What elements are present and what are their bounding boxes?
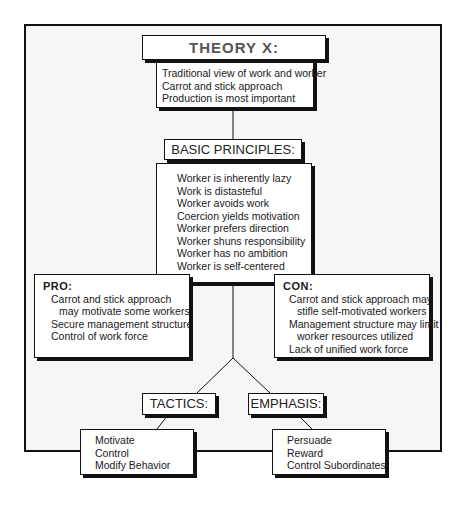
principle-item: Worker prefers direction [177, 222, 311, 235]
principle-item: Worker shuns responsibility [177, 235, 311, 248]
emphasis-item: Persuade [287, 434, 385, 447]
basic-principles-list: Worker is inherently lazy Work is distas… [156, 163, 312, 283]
principle-item: Worker avoids work [177, 197, 311, 210]
principle-item: Worker has no ambition [177, 247, 311, 260]
tactics-title: TACTICS: [150, 396, 208, 411]
con-item: Lack of unified work force [283, 343, 429, 356]
theory-x-item: Carrot and stick approach [162, 80, 308, 93]
tactics-list: Motivate Control Modify Behavior [80, 429, 194, 475]
tactics-item: Motivate [95, 434, 193, 447]
con-box: CON: Carrot and stick approach may stifl… [274, 274, 430, 358]
con-title: CON: [283, 280, 429, 293]
theory-x-item: Traditional view of work and worker [162, 67, 308, 80]
emphasis-item: Reward [287, 447, 385, 460]
tactics-header: TACTICS: [142, 393, 216, 415]
emphasis-header: EMPHASIS: [248, 393, 324, 415]
principle-item: Worker is inherently lazy [177, 172, 311, 185]
con-item: worker resources utilized [283, 330, 429, 343]
basic-principles-title: BASIC PRINCIPLES: [171, 142, 295, 157]
theory-x-description: Traditional view of work and worker Carr… [156, 60, 314, 108]
tactics-item: Modify Behavior [95, 459, 193, 472]
theory-x-title: THEORY X: [143, 36, 325, 60]
tactics-item: Control [95, 447, 193, 460]
theory-x-item: Production is most important [162, 92, 308, 105]
pro-title: PRO: [43, 280, 189, 293]
principle-item: Work is distasteful [177, 185, 311, 198]
con-item: Carrot and stick approach may [283, 293, 429, 306]
emphasis-title: EMPHASIS: [251, 396, 322, 411]
pro-item: Secure management structure [43, 318, 189, 331]
theory-x-title-box: THEORY X: [142, 35, 326, 60]
pro-box: PRO: Carrot and stick approach may motiv… [34, 274, 190, 358]
pro-item: Control of work force [43, 330, 189, 343]
pro-item: may motivate some workers [43, 305, 189, 318]
principle-item: Worker is self-centered [177, 260, 311, 273]
pro-item: Carrot and stick approach [43, 293, 189, 306]
principle-item: Coercion yields motivation [177, 210, 311, 223]
con-item: Management structure may limit [283, 318, 429, 331]
con-item: stifle self-motivated workers [283, 305, 429, 318]
emphasis-item: Control Subordinates [287, 459, 385, 472]
emphasis-list: Persuade Reward Control Subordinates [272, 429, 386, 475]
basic-principles-header: BASIC PRINCIPLES: [164, 139, 302, 160]
